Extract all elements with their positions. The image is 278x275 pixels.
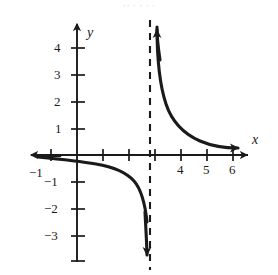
curve-right-branch — [157, 27, 238, 148]
y-tick-label-1: 1 — [55, 122, 61, 135]
y-tick-label-neg2: −2 — [44, 202, 57, 215]
coordinate-plane — [0, 0, 278, 275]
x-axis-label: x — [252, 133, 258, 147]
y-tick-label-4: 4 — [54, 41, 60, 54]
y-tick-label-neg1: −1 — [44, 175, 57, 188]
y-tick-label-2: 2 — [54, 95, 60, 108]
curve-left-branch-down-arrow — [145, 212, 147, 255]
x-tick-label-4: 4 — [177, 163, 183, 176]
y-axis-label: y — [87, 26, 93, 40]
x-tick-label-6: 6 — [229, 163, 235, 176]
graph-figure: ·· · · · · — [0, 0, 278, 275]
x-tick-label-5: 5 — [203, 163, 209, 176]
y-tick-label-3: 3 — [54, 68, 60, 81]
x-tick-label-neg1: −1 — [29, 166, 42, 179]
y-tick-label-neg3: −3 — [44, 229, 57, 242]
